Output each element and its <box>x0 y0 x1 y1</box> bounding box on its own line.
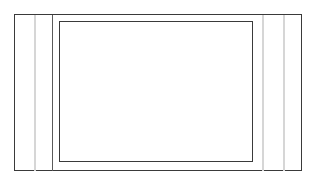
inner-rectangle-rect <box>60 22 253 162</box>
line-drawing-svg <box>0 0 317 185</box>
drawing-canvas <box>0 0 317 185</box>
